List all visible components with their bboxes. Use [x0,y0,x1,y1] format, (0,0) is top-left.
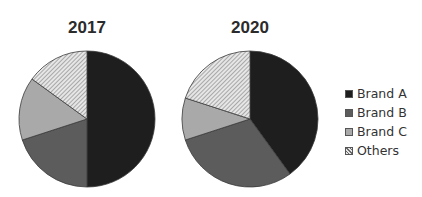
legend-swatch-hatched-icon [345,147,353,155]
pie-chart-2020 [180,49,320,189]
chart-legend: Brand A Brand B Brand C Others [345,84,407,160]
legend-label: Brand B [357,105,407,120]
legend-label: Others [357,143,399,158]
legend-item-brand-c: Brand C [345,122,407,141]
legend-label: Brand C [357,124,407,139]
legend-item-brand-b: Brand B [345,103,407,122]
legend-swatch-icon [345,128,353,136]
pie-title-2020: 2020 [210,18,290,38]
legend-item-others: Others [345,141,407,160]
pie-slice-brand-a [87,51,155,187]
legend-item-brand-a: Brand A [345,84,407,103]
legend-swatch-icon [345,90,353,98]
pie-title-2017: 2017 [47,18,127,38]
legend-label: Brand A [357,86,407,101]
legend-swatch-icon [345,109,353,117]
pie-chart-2017 [17,49,157,189]
